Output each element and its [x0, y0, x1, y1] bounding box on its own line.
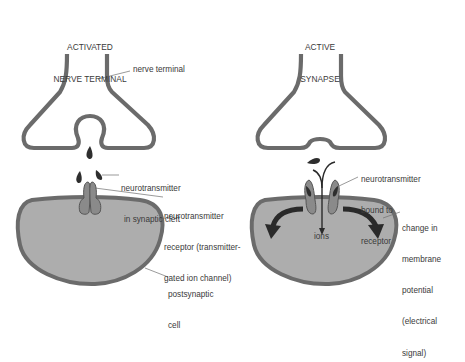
label-receptor-line-1: neurotransmitter	[164, 212, 240, 222]
left-title-line-2: NERVE TERMINAL	[40, 74, 140, 85]
label-post-line-2: cell	[168, 321, 214, 331]
right-nt-droplet	[307, 158, 320, 164]
label-bound-line-1: neurotransmitter	[361, 175, 421, 185]
left-nt-droplet-3	[96, 170, 102, 180]
label-receptor-line-2: receptor (transmitter-	[164, 243, 240, 253]
left-panel-title: ACTIVATED NERVE TERMINAL	[40, 21, 140, 106]
label-change-line-4: (electrical	[402, 317, 441, 327]
label-ions: ions	[314, 232, 329, 242]
leader-bound	[339, 177, 358, 186]
right-title-line-1: ACTIVE	[285, 42, 355, 53]
left-title-line-1: ACTIVATED	[40, 42, 140, 53]
label-change-line-3: potential	[402, 286, 441, 296]
left-nt-droplet-2	[76, 171, 81, 183]
label-change-line-2: membrane	[402, 255, 441, 265]
label-nerve-terminal: nerve terminal	[133, 65, 185, 75]
label-change-line-1: change in	[402, 224, 441, 234]
label-change-line-5: signal)	[402, 349, 441, 359]
label-post-line-1: postsynaptic	[168, 290, 214, 300]
right-panel-title: ACTIVE SYNAPSE	[285, 21, 355, 106]
left-nt-droplet-1	[86, 146, 92, 159]
right-title-line-2: SYNAPSE	[285, 74, 355, 85]
label-postsynaptic-cell: postsynaptic cell	[168, 269, 214, 352]
label-membrane-potential: change in membrane potential (electrical…	[402, 203, 441, 362]
